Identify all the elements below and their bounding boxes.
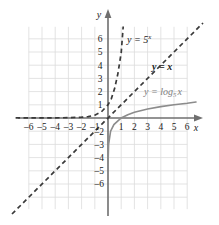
curve-exponential xyxy=(16,27,124,118)
y-tick-label: 6 xyxy=(98,34,103,44)
y-axis-arrow xyxy=(105,9,112,18)
y-tick-label: –4 xyxy=(94,153,105,163)
y-tick-label: –5 xyxy=(94,166,105,176)
x-tick-label: –6 xyxy=(23,122,34,132)
y-axis-label: y xyxy=(96,9,102,20)
y-tick-label: 5 xyxy=(98,47,103,57)
x-tick-label: –5 xyxy=(36,122,47,132)
identity-label: y = x xyxy=(151,61,172,72)
y-tick-label: 4 xyxy=(98,61,103,71)
logarithm-label-subscript: 5 xyxy=(173,91,177,98)
y-tick-label: –6 xyxy=(94,179,105,189)
x-tick-label: 6 xyxy=(185,122,190,132)
x-tick-label: –2 xyxy=(76,122,87,132)
y-tick-label: 2 xyxy=(98,87,103,97)
coordinate-plane: –6 –5 –4 –3 –2 –1 1 2 3 4 5 6 6 5 4 3 2 … xyxy=(0,0,219,225)
exponential-label-exponent: x xyxy=(147,33,151,40)
x-tick-label: –3 xyxy=(63,122,74,132)
axes xyxy=(18,9,203,216)
y-tick-label: 1 xyxy=(98,100,103,110)
x-tick-label: 1 xyxy=(119,122,124,132)
exponential-label-text: y = 5 xyxy=(126,34,148,45)
graph-figure: –6 –5 –4 –3 –2 –1 1 2 3 4 5 6 6 5 4 3 2 … xyxy=(0,0,219,225)
logarithm-label: y = log5x xyxy=(143,86,182,98)
svg-text:y = log5x: y = log5x xyxy=(143,86,182,98)
x-tick-label: 2 xyxy=(132,122,137,132)
y-tick-label: –2 xyxy=(94,127,105,137)
exponential-label: y = 5x xyxy=(126,33,151,45)
logarithm-label-tail: x xyxy=(176,86,182,97)
x-tick-label: 5 xyxy=(172,122,177,132)
y-tick-label: 3 xyxy=(98,74,103,84)
svg-text:y = 5x: y = 5x xyxy=(126,33,151,45)
logarithm-label-text: y = log xyxy=(143,86,173,97)
x-tick-label: –4 xyxy=(49,122,60,132)
x-axis-arrow xyxy=(194,115,203,122)
x-axis-label: x xyxy=(193,122,199,133)
y-tick-label: –3 xyxy=(94,140,105,150)
x-tick-label: 4 xyxy=(158,122,163,132)
x-tick-label: 3 xyxy=(145,122,150,132)
x-tick-labels: –6 –5 –4 –3 –2 –1 1 2 3 4 5 6 xyxy=(23,122,190,132)
